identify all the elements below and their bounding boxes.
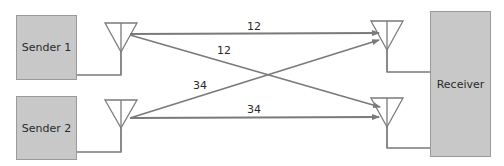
sender-2-box: Sender 2 <box>16 96 77 160</box>
receiver-antenna-2-icon <box>371 98 430 148</box>
sender-1-label: Sender 1 <box>22 41 72 54</box>
receiver-antenna-1-icon <box>371 21 430 72</box>
link-label-s1-r2: 12 <box>217 45 231 56</box>
mimo-diagram: Sender 1 Sender 2 Receiver 12 12 34 34 <box>0 0 504 166</box>
link-label-s2-r1: 34 <box>193 80 207 91</box>
link-label-s2-r2: 34 <box>247 104 261 115</box>
link-s1-r1 <box>130 33 379 34</box>
sender-1-box: Sender 1 <box>16 15 77 80</box>
link-s1-r2 <box>130 35 380 107</box>
sender-2-antenna-icon <box>77 100 137 152</box>
link-s2-r2 <box>130 117 379 118</box>
receiver-box: Receiver <box>430 11 491 157</box>
link-label-s1-r1: 12 <box>247 21 261 32</box>
sender-1-antenna-icon <box>77 23 137 75</box>
sender-2-label: Sender 2 <box>22 122 72 135</box>
receiver-label: Receiver <box>437 78 485 91</box>
